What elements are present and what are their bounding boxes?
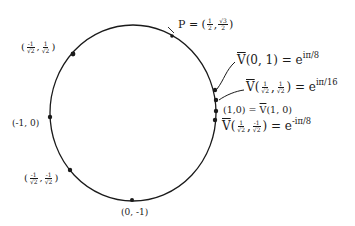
v-operator: V	[237, 53, 246, 67]
label-point-neg1-0: (-1, 0)	[12, 119, 39, 128]
fraction: 1√2	[41, 41, 51, 54]
fraction: -1√2	[44, 172, 54, 185]
label-one-zero-text: (1,0) =	[223, 104, 260, 115]
fraction: -1√2	[26, 41, 36, 54]
fraction: -1√2	[252, 120, 262, 133]
denominator: √2	[260, 88, 270, 94]
denominator: √2	[236, 127, 246, 133]
paren: (	[24, 172, 28, 183]
unit-circle	[50, 25, 216, 201]
exponent: iπ/8	[303, 50, 319, 60]
paren: )	[51, 41, 55, 52]
label-p-prefix: P = (	[178, 18, 206, 31]
v-operator: V	[222, 119, 231, 133]
label-vq1-close: ) = e	[286, 80, 315, 94]
point-vq4	[213, 118, 217, 122]
label-point-one-zero: (1,0) = V(1, 0)	[223, 105, 292, 115]
paren: )	[229, 18, 233, 31]
v-operator: V	[246, 80, 255, 94]
unit-circle-diagram	[0, 0, 355, 226]
label-one-zero-args: (1, 0)	[266, 104, 292, 115]
denominator: √2	[29, 179, 39, 185]
label-vq4-close: ) = e	[262, 119, 291, 133]
label-point-q3: (-1√2,-1√2)	[24, 172, 58, 185]
fraction: 1√2	[236, 120, 246, 133]
paren: )	[54, 172, 58, 183]
point-v01	[213, 88, 217, 92]
denominator: √2	[44, 179, 54, 185]
denominator: √2	[252, 127, 262, 133]
point-vq1	[214, 98, 218, 102]
label-v01-args: (0, 1) = e	[246, 53, 303, 67]
denominator: √2	[276, 88, 286, 94]
paren: (	[255, 80, 260, 94]
separator: ,	[40, 172, 43, 183]
paren: (	[21, 41, 25, 52]
fraction: √32	[218, 18, 228, 31]
label-point-p: P = (12,√32)	[178, 18, 233, 31]
separator: ,	[37, 41, 40, 52]
label-point-v01: V(0, 1) = eiπ/8	[237, 54, 319, 66]
denominator: √2	[26, 48, 36, 54]
fraction: 1√2	[276, 81, 286, 94]
exponent: -iπ/8	[292, 116, 311, 126]
point-q2	[71, 52, 76, 57]
leader-p	[168, 27, 174, 33]
point-q3	[68, 168, 72, 172]
label-point-vq4: V(1√2,-1√2) = e-iπ/8	[222, 120, 311, 133]
point-one-zero	[214, 109, 218, 113]
label-point-q2: (-1√2,1√2)	[21, 41, 55, 54]
point-0-neg1	[130, 198, 134, 202]
fraction: 1√2	[260, 81, 270, 94]
leader-v01	[217, 62, 235, 89]
denominator: 2	[220, 25, 226, 31]
point-p	[170, 34, 174, 38]
fraction: -1√2	[29, 172, 39, 185]
point-neg1-0	[48, 115, 52, 119]
denominator: 2	[207, 25, 213, 31]
fraction: 12	[207, 18, 213, 31]
label-point-0-neg1: (0, -1)	[121, 208, 148, 217]
label-point-vq1: V(1√2,1√2) = eiπ/16	[246, 81, 338, 94]
leader-vq1	[219, 90, 244, 100]
denominator: √2	[41, 48, 51, 54]
separator: ,	[247, 119, 251, 133]
separator: ,	[271, 80, 275, 94]
exponent: iπ/16	[316, 77, 338, 87]
paren: (	[231, 119, 236, 133]
